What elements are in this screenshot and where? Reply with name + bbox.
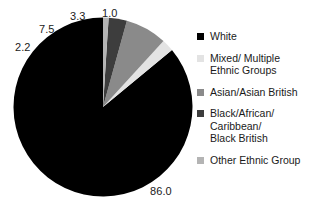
- pie-svg: [0, 0, 196, 212]
- legend-item[interactable]: Black/African/ Caribbean/ Black British: [197, 107, 317, 145]
- legend-item-label: Other Ethnic Group: [210, 154, 300, 167]
- slice-value-asian: 7.5: [39, 24, 55, 35]
- slice-value-mixed: 2.2: [15, 42, 31, 53]
- slice-value-black: 3.3: [70, 11, 86, 22]
- slice-value-other: 1.0: [102, 8, 118, 19]
- legend-item[interactable]: Other Ethnic Group: [197, 154, 317, 167]
- legend-item[interactable]: White: [197, 30, 317, 43]
- legend-swatch-icon: [197, 33, 204, 40]
- pie-plot-area: 86.0 2.2 7.5 3.3 1.0: [0, 0, 196, 212]
- slice-value-white: 86.0: [150, 186, 172, 197]
- pie-slices: [13, 18, 192, 197]
- legend-swatch-icon: [197, 157, 204, 164]
- legend-item[interactable]: Asian/Asian British: [197, 86, 317, 99]
- pie-chart-figure: 86.0 2.2 7.5 3.3 1.0 WhiteMixed/ Multipl…: [0, 0, 317, 212]
- legend-item-label: White: [210, 30, 237, 43]
- legend-item-label: Mixed/ Multiple Ethnic Groups: [210, 52, 280, 77]
- legend-item-label: Black/African/ Caribbean/ Black British: [210, 107, 274, 145]
- legend-item[interactable]: Mixed/ Multiple Ethnic Groups: [197, 52, 317, 77]
- legend-item-label: Asian/Asian British: [210, 86, 298, 99]
- legend-swatch-icon: [197, 55, 204, 62]
- legend-swatch-icon: [197, 89, 204, 96]
- chart-legend: WhiteMixed/ Multiple Ethnic GroupsAsian/…: [197, 30, 317, 175]
- legend-swatch-icon: [197, 110, 204, 117]
